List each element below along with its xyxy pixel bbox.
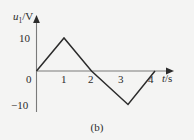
triangular-waveform-figure: u1/V t/s 10 −10 0 1 2 3 4 (b): [0, 0, 194, 140]
figure-caption: (b): [0, 122, 194, 133]
y-axis-title-unit: /V: [22, 10, 33, 22]
y-axis: [33, 15, 40, 112]
x-axis-title-unit: /s: [165, 72, 172, 84]
y-axis-title: u1/V: [13, 11, 33, 25]
origin-label: 0: [26, 74, 32, 85]
y-tick-label-10: 10: [19, 33, 30, 44]
x-axis-title: t/s: [162, 73, 172, 84]
x-tick-label-4: 4: [148, 74, 154, 85]
x-tick-label-2: 2: [88, 74, 94, 85]
x-tick-label-3: 3: [118, 74, 124, 85]
y-axis-arrowhead: [33, 15, 40, 23]
y-tick-label-minus-10: −10: [11, 100, 28, 111]
x-tick-label-1: 1: [61, 74, 67, 85]
